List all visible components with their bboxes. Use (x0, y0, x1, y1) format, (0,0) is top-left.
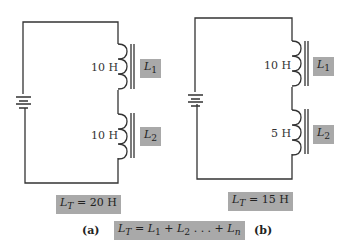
total-inductance-a: LT = 20 H (56, 195, 121, 214)
inductor-label-a2: L2 (140, 127, 161, 146)
inductor-value-b1: 10 H (264, 60, 291, 72)
inductor-coil-b2 (292, 110, 301, 155)
circuit-diagram (0, 0, 348, 240)
inductor-coil-a1 (118, 44, 127, 89)
wire-a (23, 22, 118, 94)
inductor-value-b2: 5 H (271, 128, 291, 140)
inductor-value-a1: 10 H (91, 62, 118, 74)
series-inductance-formula: LT = L1 + L2 . . . + Ln (114, 221, 245, 240)
inductor-coil-a2 (118, 114, 127, 159)
battery-b (188, 95, 203, 106)
inductor-label-a1: L1 (140, 59, 161, 78)
caption-a: (a) (82, 224, 100, 237)
inductor-coil-b1 (292, 41, 301, 86)
total-inductance-b: LT = 15 H (228, 192, 293, 211)
caption-b: (b) (254, 224, 272, 237)
inductor-value-a2: 10 H (91, 130, 118, 142)
wire-b (195, 18, 292, 92)
inductor-label-b2: L2 (313, 125, 334, 144)
battery-a (16, 97, 31, 108)
inductor-label-b1: L1 (313, 57, 334, 76)
